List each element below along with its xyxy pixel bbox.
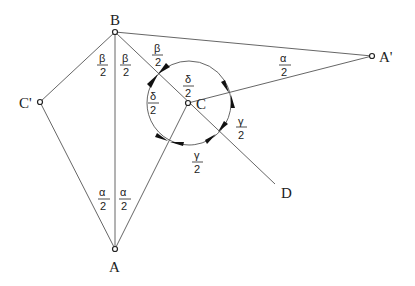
arrow-icon	[231, 95, 235, 108]
label-a: A	[109, 259, 120, 275]
numerator: α	[99, 186, 106, 198]
numerator: β	[154, 42, 160, 54]
denominator: 2	[194, 163, 200, 175]
point-c-prime	[38, 100, 43, 105]
numerator: δ	[185, 73, 191, 85]
fraction-delta-1: δ 2	[183, 73, 194, 99]
geometry-diagram: B C C' A A' D β 2 β 2 β 2 δ 2	[0, 0, 415, 286]
denominator: 2	[150, 104, 156, 116]
fraction-beta-2: β 2	[120, 52, 131, 78]
denominator: 2	[123, 66, 129, 78]
fraction-alpha-3: α 2	[279, 52, 291, 78]
denominator: 2	[238, 129, 244, 141]
fraction-beta-1: β 2	[97, 52, 108, 78]
arrow-icon	[205, 134, 216, 144]
numerator: γ	[194, 149, 200, 161]
label-b: B	[110, 12, 120, 28]
numerator: β	[99, 52, 105, 64]
point-c	[186, 101, 191, 106]
segment-cprime-a	[40, 102, 115, 249]
fraction-delta-2: δ 2	[148, 90, 159, 116]
diagram-svg: B C C' A A' D β 2 β 2 β 2 δ 2	[0, 0, 415, 286]
denominator: 2	[281, 66, 287, 78]
denominator: 2	[185, 87, 191, 99]
segment-c-a	[115, 103, 188, 249]
denominator: 2	[100, 66, 106, 78]
denominator: 2	[121, 200, 127, 212]
numerator: δ	[150, 90, 156, 102]
label-c-prime: C'	[19, 95, 32, 111]
numerator: γ	[238, 115, 244, 127]
arrow-icon	[147, 74, 158, 88]
numerator: α	[280, 52, 287, 64]
fraction-alpha-1: α 2	[98, 186, 110, 212]
arrow-icon	[170, 142, 184, 146]
point-a	[113, 247, 118, 252]
point-b	[113, 30, 118, 35]
fraction-gamma-1: γ 2	[236, 115, 247, 141]
segment-b-d	[115, 32, 275, 184]
numerator: β	[122, 52, 128, 64]
fraction-beta-3: β 2	[152, 42, 163, 68]
label-c: C	[196, 96, 206, 112]
numerator: α	[120, 186, 127, 198]
fraction-gamma-2: γ 2	[192, 149, 203, 175]
point-a-prime	[370, 54, 375, 59]
denominator: 2	[155, 56, 161, 68]
label-d: D	[281, 185, 292, 201]
label-a-prime: A'	[379, 49, 393, 65]
fraction-alpha-2: α 2	[119, 186, 131, 212]
denominator: 2	[100, 200, 106, 212]
point-labels: B C C' A A' D	[19, 12, 393, 275]
angle-labels: β 2 β 2 β 2 δ 2 δ 2 γ	[97, 42, 291, 212]
